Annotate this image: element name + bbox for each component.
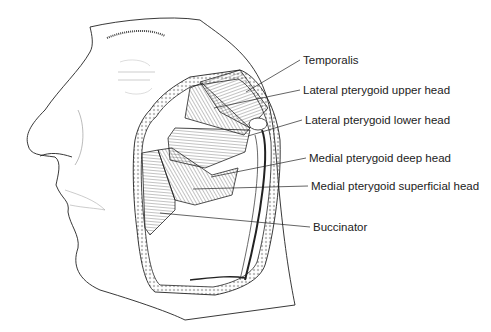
head-illustration (0, 0, 491, 332)
label-medial-pterygoid-deep-head: Medial pterygoid deep head (309, 152, 451, 164)
label-lateral-pterygoid-lower-head: Lateral pterygoid lower head (305, 114, 450, 126)
anatomy-diagram: Temporalis Lateral pterygoid upper head … (0, 0, 491, 332)
label-temporalis: Temporalis (303, 54, 359, 66)
label-medial-pterygoid-superficial-head: Medial pterygoid superficial head (311, 180, 479, 192)
label-buccinator: Buccinator (313, 221, 367, 233)
label-lateral-pterygoid-upper-head: Lateral pterygoid upper head (303, 84, 450, 96)
